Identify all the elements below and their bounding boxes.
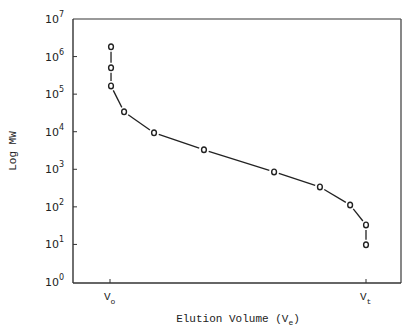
y-tick-label: 104 — [45, 123, 64, 139]
y-tick-label: 105 — [45, 85, 64, 101]
data-point-marker — [109, 83, 114, 89]
y-axis-ticks: 100101102103104105106107 — [45, 10, 77, 289]
y-axis-label: Log MW — [7, 131, 19, 171]
y-tick-label: 100 — [45, 273, 64, 289]
y-tick-label: 102 — [45, 198, 64, 214]
y-tick-label: 106 — [45, 48, 64, 64]
x-axis-label: Elution Volume (Ve) — [176, 313, 300, 327]
data-point-marker — [202, 147, 207, 153]
data-point-marker — [272, 169, 277, 175]
data-point-marker — [364, 242, 369, 248]
data-point-marker — [109, 65, 114, 71]
y-tick-label: 107 — [45, 10, 64, 26]
data-point-marker — [364, 222, 369, 228]
x-tick-label: Vt — [360, 291, 371, 306]
data-series — [109, 44, 369, 248]
plot-frame — [73, 19, 401, 283]
data-point-marker — [348, 202, 353, 208]
y-tick-label: 101 — [45, 235, 64, 251]
y-tick-label: 103 — [45, 160, 64, 176]
data-point-marker — [152, 130, 157, 136]
x-tick-label: Vo — [104, 291, 116, 306]
data-point-marker — [109, 44, 114, 50]
data-point-marker — [122, 109, 127, 115]
chart: 100101102103104105106107 VoVt Log MW Elu… — [0, 0, 402, 330]
data-point-marker — [318, 184, 323, 190]
